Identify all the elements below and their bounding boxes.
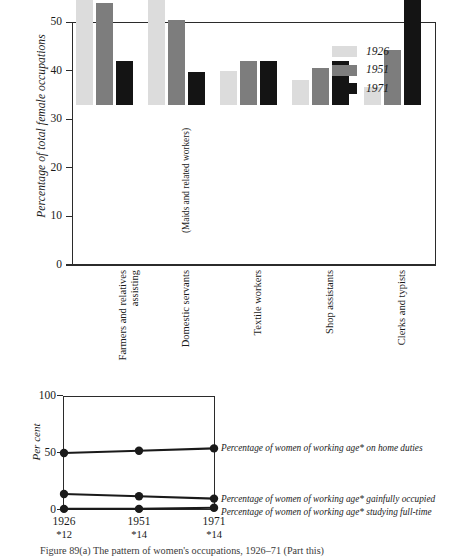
bar-1951-textile-workers: [240, 61, 257, 105]
legend-swatch-1971-icon: [332, 83, 357, 94]
category-label-clerks-typists-line1: Clerks and typists: [396, 270, 408, 345]
figure-caption: Figure 89(a) The pattern of women's occu…: [40, 545, 324, 556]
line-x-label-1951: 1951 *14: [116, 514, 162, 542]
bar-chart: Percentage of total female occupations 0…: [0, 0, 460, 370]
category-label-textile-workers-line1: Textile workers: [252, 270, 264, 335]
bar-chart-x-axis-line: [66, 264, 436, 266]
line-label-gainfully-occupied: Percentage of women of working age* gain…: [221, 494, 435, 504]
category-label-clerks-typists: Clerks and typists: [396, 270, 408, 345]
marker-gainfully-occupied-1926: [60, 490, 68, 498]
legend-label-1926: 1926: [366, 46, 389, 58]
line-x-label-1951-note: *14: [116, 528, 162, 541]
category-label-domestic-servants-line1: Domestic servants: [180, 270, 192, 347]
category-label-textile-workers: Textile workers: [252, 270, 264, 335]
marker-studying-full-time-1971: [210, 504, 218, 512]
marker-home-duties-1951: [135, 447, 143, 455]
category-label-farmers-line1: Farmers and relatives: [117, 270, 129, 360]
y-tick-label-10: 10: [36, 210, 62, 222]
bar-1926-shop-assistants: [292, 80, 309, 105]
bar-1951-shop-assistants: [312, 68, 329, 105]
legend-swatch-1926-icon: [332, 46, 357, 57]
marker-home-duties-1926: [60, 449, 68, 457]
bar-1971-clerks-typists: [404, 0, 421, 105]
line-x-label-1971: 1971 *14: [191, 514, 237, 542]
line-label-studying-full-time: Percentage of women of working age* stud…: [221, 507, 432, 517]
bar-1926-domestic-servants: [148, 0, 165, 105]
y-tick-label-50: 50: [36, 16, 62, 28]
figure-container: Percentage of total female occupations 0…: [0, 0, 460, 559]
line-label-home-duties: Percentage of women of working age* on h…: [221, 443, 423, 453]
legend-item-1951: 1951: [332, 63, 389, 78]
category-label-farmers-line2: assisting: [129, 270, 141, 360]
legend-label-1951: 1951: [366, 64, 389, 76]
maids-annotation: (Maids and related workers): [181, 128, 191, 233]
line-x-label-1926-year: 1926: [53, 515, 76, 527]
line-x-label-1971-note: *14: [191, 528, 237, 541]
bar-1951-farmers: [96, 3, 113, 105]
y-tick-label-40: 40: [36, 65, 62, 77]
legend-item-1971: 1971: [332, 81, 389, 96]
bar-1951-domestic-servants: [168, 20, 185, 105]
category-label-domestic-servants: Domestic servants: [180, 270, 192, 347]
line-x-label-1926: 1926 *12: [41, 514, 87, 542]
bar-1926-textile-workers: [220, 71, 237, 105]
line-x-label-1971-year: 1971: [203, 515, 226, 527]
bar-group-textile-workers: [220, 0, 278, 105]
bar-1971-textile-workers: [260, 61, 277, 105]
y-tick-label-20: 20: [36, 162, 62, 174]
category-label-shop-assistants: Shop assistants: [324, 270, 336, 334]
line-chart: Per cent 0 50 100 Pe: [0, 378, 460, 528]
category-label-shop-assistants-line1: Shop assistants: [324, 270, 336, 334]
bar-chart-y-axis-label: Percentage of total female occupations: [35, 21, 47, 231]
marker-studying-full-time-1926: [60, 505, 68, 513]
bar-group-farmers: [76, 0, 134, 105]
line-x-label-1951-year: 1951: [128, 515, 151, 527]
bar-group-domestic-servants: [148, 0, 206, 105]
y-tick-label-30: 30: [36, 113, 62, 125]
y-tick-label-0: 0: [36, 259, 62, 271]
bar-chart-legend: 1926 1951 1971: [332, 44, 389, 100]
marker-gainfully-occupied-1951: [135, 492, 143, 500]
bar-1971-farmers: [116, 61, 133, 105]
bar-1926-farmers: [76, 0, 93, 105]
marker-home-duties-1971: [210, 444, 218, 452]
legend-item-1926: 1926: [332, 44, 389, 59]
legend-swatch-1951-icon: [332, 65, 357, 76]
marker-studying-full-time-1951: [135, 505, 143, 513]
bar-1971-domestic-servants: [188, 72, 205, 105]
legend-label-1971: 1971: [366, 83, 389, 95]
category-label-farmers: Farmers and relatives assisting: [117, 270, 141, 360]
marker-gainfully-occupied-1971: [210, 494, 218, 502]
line-x-label-1926-note: *12: [41, 528, 87, 541]
